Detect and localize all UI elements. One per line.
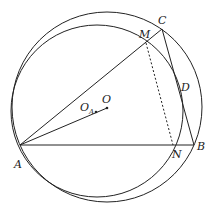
label-A: A [14,159,22,170]
label-B: B [197,141,205,152]
point-OA [95,111,98,114]
label-O: O [102,94,111,105]
geometry-diagram: A B C M N D O OA [0,0,211,211]
point-O [106,107,109,110]
segment-AC [20,29,162,145]
label-C: C [158,15,166,26]
label-N: N [172,149,182,160]
segment-MN [146,43,173,145]
label-OA-main: O [80,101,89,114]
label-OA: OA [80,102,94,116]
label-M: M [139,29,150,40]
label-OA-subscript: A [89,108,94,116]
label-D: D [181,82,190,93]
